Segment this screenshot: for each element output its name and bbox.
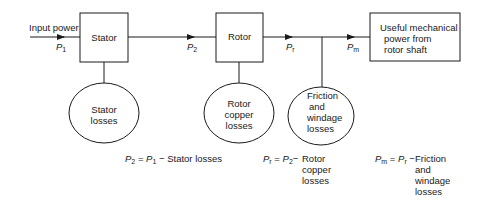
stator-block-label: Stator bbox=[80, 32, 128, 43]
equation-pm-terms: Friction and windage losses bbox=[415, 153, 450, 197]
rotor-losses-label: Rotor copper losses bbox=[204, 98, 274, 131]
input-power-label: Input power bbox=[29, 22, 79, 33]
p2-label: P2 bbox=[187, 41, 197, 55]
equation-p2: P2 = P1 − Stator losses bbox=[125, 153, 222, 167]
output-block-label: Useful mechanical power from rotor shaft bbox=[380, 22, 458, 55]
equation-pr: Pr = P2− bbox=[263, 153, 298, 167]
pr-label: Pr bbox=[286, 41, 295, 55]
stator-losses-label: Stator losses bbox=[69, 104, 139, 126]
rotor-block-label: Rotor bbox=[216, 31, 263, 42]
friction-losses-label: Friction and windage losses bbox=[307, 90, 342, 134]
equation-pm: Pm = Pr − bbox=[375, 153, 415, 167]
p1-label: P1 bbox=[56, 41, 66, 55]
pm-label: Pm bbox=[347, 41, 359, 55]
equation-pr-terms: Rotor copper losses bbox=[302, 153, 331, 186]
